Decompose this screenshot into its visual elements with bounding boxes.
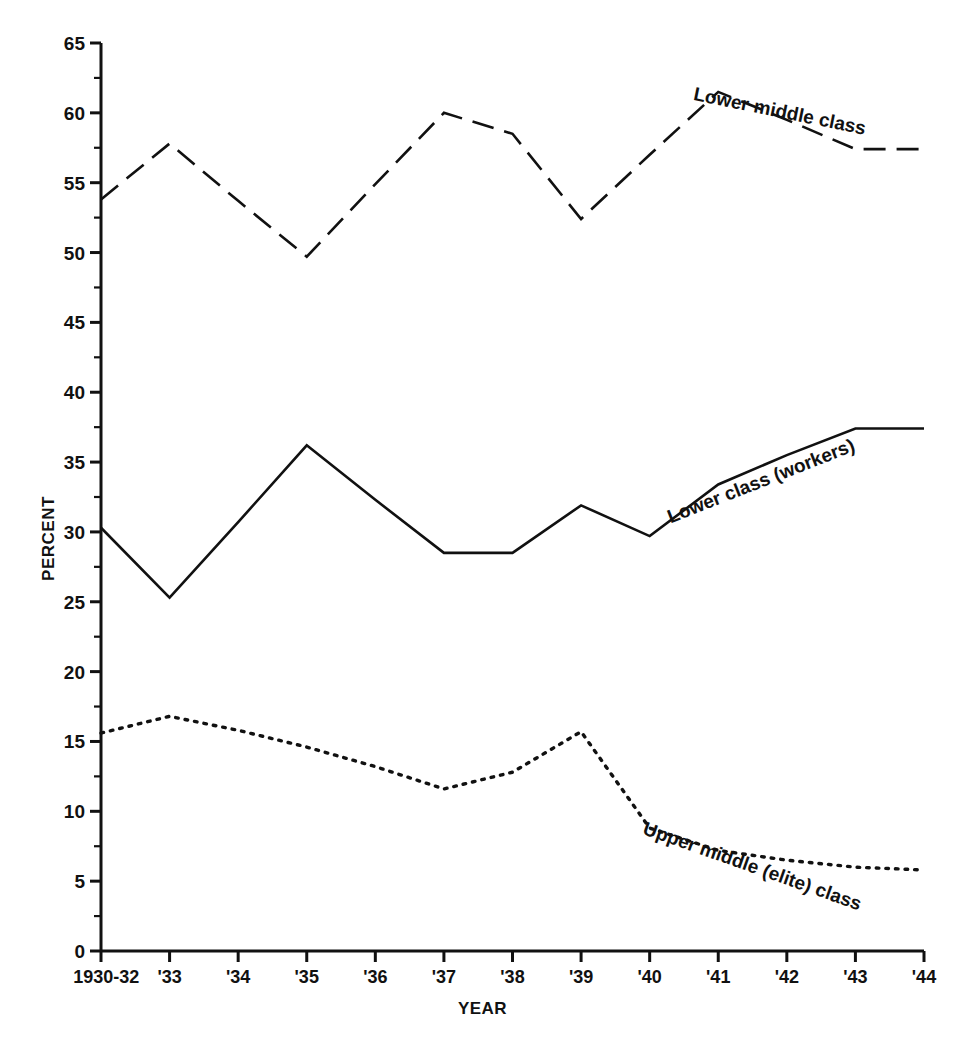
y-axis-tick-label: 30: [64, 522, 85, 541]
data-series-group: [101, 92, 924, 870]
y-axis-tick-label: 10: [64, 802, 85, 821]
x-axis-tick-label: '41: [706, 968, 730, 986]
x-axis-tick-label: 1930-32: [73, 968, 139, 986]
x-axis-tick-label: '34: [226, 968, 250, 986]
y-axis-tick-label: 25: [64, 592, 85, 611]
chart-figure: 05101520253035404550556065 1930-32'33'34…: [0, 0, 965, 1043]
y-axis-tick-label: 5: [74, 872, 85, 891]
x-axis-tick-label: '38: [500, 968, 524, 986]
x-axis-title: YEAR: [0, 1000, 965, 1017]
y-axis-tick-label: 15: [64, 732, 85, 751]
x-axis-tick-label: '35: [295, 968, 319, 986]
y-axis-tick-label: 0: [74, 942, 85, 961]
x-axis-tick-label: '40: [638, 968, 662, 986]
x-axis-tick-label: '33: [157, 968, 181, 986]
y-axis-ticks: [90, 43, 101, 951]
y-axis-title: PERCENT: [40, 479, 57, 599]
series-line-upper-middle-elite-class: [101, 716, 924, 870]
x-axis-tick-label: '43: [843, 968, 867, 986]
y-axis-tick-label: 65: [64, 34, 85, 53]
x-axis-tick-label: '39: [569, 968, 593, 986]
y-axis-tick-label: 45: [64, 313, 85, 332]
x-axis-tick-label: '44: [912, 968, 936, 986]
y-axis-tick-label: 35: [64, 453, 85, 472]
y-axis-tick-label: 55: [64, 173, 85, 192]
y-axis-tick-label: 50: [64, 243, 85, 262]
x-axis-tick-label: '36: [363, 968, 387, 986]
x-axis-ticks: [101, 951, 924, 962]
x-axis-tick-label: '37: [432, 968, 456, 986]
y-axis-tick-label: 40: [64, 383, 85, 402]
x-axis-tick-label: '42: [775, 968, 799, 986]
y-axis-tick-label: 20: [64, 662, 85, 681]
y-axis-tick-label: 60: [64, 103, 85, 122]
